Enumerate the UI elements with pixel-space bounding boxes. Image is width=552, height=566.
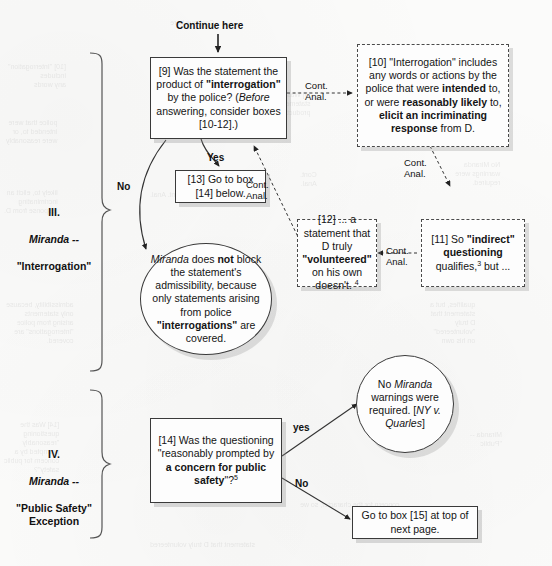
flow-node-box12[interactable]: [12] ... a statement that D truly "volun… bbox=[297, 219, 377, 287]
flow-node-oval-no-warnings-text: No Miranda warnings were required. [NY v… bbox=[357, 378, 453, 431]
edge-label-cont-anal-box9-box10: Cont. Anal. bbox=[305, 80, 328, 102]
edge-label-cont-anal-box11-box12: Cont. Anal. bbox=[386, 245, 409, 267]
flow-node-box14[interactable]: [14] Was the questioning "reasonably pro… bbox=[150, 418, 282, 503]
edge-label-yes-from-box14: yes bbox=[293, 422, 310, 434]
section-iii-numeral: III. bbox=[48, 206, 60, 218]
flow-node-box11-text: [11] So "indirect" questioning qualifies… bbox=[422, 231, 524, 275]
section-iii-name: Miranda -- bbox=[29, 233, 79, 245]
section-iv-subtitle: "Public Safety" Exception bbox=[16, 502, 92, 528]
section-heading-iii: III. Miranda -- "Interrogation" bbox=[0, 192, 108, 273]
section-iv-name: Miranda -- bbox=[29, 475, 79, 487]
entry-label: Continue here bbox=[176, 20, 243, 32]
flow-node-box10-text: [10] "Interrogation" includes any words … bbox=[358, 54, 508, 137]
flow-node-oval-no-block-text: Miranda does not block the statement's a… bbox=[141, 253, 271, 345]
flow-node-oval-no-warnings[interactable]: No Miranda warnings were required. [NY v… bbox=[356, 355, 454, 453]
flow-node-box9-text: [9] Was the statement the product of "in… bbox=[151, 63, 286, 133]
flow-node-box11[interactable]: [11] So "indirect" questioning qualifies… bbox=[421, 219, 525, 287]
flow-node-oval-no-block[interactable]: Miranda does not block the statement's a… bbox=[140, 243, 272, 355]
section-iii-subtitle: "Interrogation" bbox=[17, 260, 92, 272]
flow-node-box15[interactable]: Go to box [15] at top of next page. bbox=[352, 506, 478, 539]
section-heading-iv: IV. Miranda -- "Public Safety" Exception bbox=[0, 434, 108, 529]
edge-label-cont-anal-box10-box11: Cont. Anal. bbox=[404, 157, 427, 179]
section-iv-numeral: IV. bbox=[48, 448, 60, 460]
edge-label-cont-anal-box12-box9: Cont. Anal. bbox=[246, 179, 269, 201]
flow-node-box14-text: [14] Was the questioning "reasonably pro… bbox=[151, 432, 281, 489]
flow-node-box12-text: [12] ... a statement that D truly "volun… bbox=[297, 211, 376, 294]
edge-label-no-from-box14: No bbox=[295, 478, 308, 490]
flow-node-box9[interactable]: [9] Was the statement the product of "in… bbox=[150, 57, 287, 139]
content-layer: Continue here III. Miranda -- "Interroga… bbox=[0, 0, 552, 566]
edge-label-no-from-box9: No bbox=[117, 181, 130, 193]
flow-node-box15-text: Go to box [15] at top of next page. bbox=[353, 507, 477, 537]
edge-label-yes-from-box9: Yes bbox=[207, 152, 224, 164]
flow-node-box10[interactable]: [10] "Interrogation" includes any words … bbox=[357, 44, 509, 147]
